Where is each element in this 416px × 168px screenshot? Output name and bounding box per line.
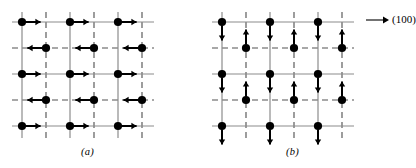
spin-site xyxy=(338,29,346,52)
spin-site xyxy=(266,18,274,41)
spin-site xyxy=(18,122,41,130)
lattice-site-dot xyxy=(338,44,346,52)
spin-site xyxy=(123,96,146,104)
spin-arrowhead-left-icon xyxy=(27,45,32,51)
lattice-site-dot xyxy=(66,70,74,78)
spin-arrowhead-right-icon xyxy=(35,123,40,129)
spin-site xyxy=(114,122,137,130)
lattice-site-dot xyxy=(66,122,74,130)
spin-arrowhead-left-icon xyxy=(75,45,80,51)
lattice-site-dot xyxy=(290,44,298,52)
spin-site xyxy=(66,70,89,78)
spin-site xyxy=(123,44,146,52)
spin-arrowhead-up-icon xyxy=(243,29,249,34)
panel-a-caption: (a) xyxy=(0,146,175,157)
panel-a xyxy=(0,0,203,168)
spin-site xyxy=(218,18,226,41)
spin-arrowhead-right-icon xyxy=(131,19,136,25)
lattice-site-dot xyxy=(114,70,122,78)
lattice-site-dot xyxy=(290,96,298,104)
spin-site xyxy=(242,81,250,104)
lattice-site-dot xyxy=(218,70,226,78)
lattice-site-dot xyxy=(338,96,346,104)
spin-site xyxy=(314,122,322,145)
lattice-site-dot xyxy=(242,96,250,104)
direction-label-text: (100) xyxy=(392,13,416,25)
spin-arrowhead-down-icon xyxy=(219,87,225,92)
spin-site xyxy=(242,29,250,52)
spin-arrowhead-left-icon xyxy=(75,97,80,103)
spin-arrowhead-down-icon xyxy=(267,139,273,144)
spin-arrowhead-up-icon xyxy=(243,81,249,86)
lattice-site-dot xyxy=(218,18,226,26)
spin-site xyxy=(338,81,346,104)
lattice-site-dot xyxy=(138,96,146,104)
spin-site xyxy=(18,70,41,78)
spin-arrowhead-right-icon xyxy=(35,19,40,25)
lattice-site-dot xyxy=(138,44,146,52)
spin-arrowhead-down-icon xyxy=(267,35,273,40)
spin-arrowhead-right-icon xyxy=(83,71,88,77)
spin-arrowhead-right-icon xyxy=(131,123,136,129)
lattice-site-dot xyxy=(218,122,226,130)
spin-arrowhead-down-icon xyxy=(219,35,225,40)
lattice-site-dot xyxy=(266,70,274,78)
spin-arrowhead-down-icon xyxy=(267,87,273,92)
lattice-site-dot xyxy=(314,122,322,130)
spin-arrowhead-up-icon xyxy=(339,29,345,34)
lattice-site-dot xyxy=(266,122,274,130)
spin-site xyxy=(266,70,274,93)
spin-site xyxy=(27,44,50,52)
spin-arrowhead-right-icon xyxy=(83,19,88,25)
lattice-site-dot xyxy=(314,18,322,26)
spin-site xyxy=(66,18,89,26)
lattice-site-dot xyxy=(114,122,122,130)
right-arrow-icon xyxy=(366,15,390,25)
direction-label: (100) xyxy=(366,13,416,25)
lattice-site-dot xyxy=(114,18,122,26)
spin-site xyxy=(218,70,226,93)
spin-site xyxy=(290,29,298,52)
lattice-site-dot xyxy=(314,70,322,78)
spin-arrowhead-right-icon xyxy=(35,71,40,77)
lattice-site-dot xyxy=(42,96,50,104)
spin-arrowhead-left-icon xyxy=(27,97,32,103)
spin-arrowhead-left-icon xyxy=(123,97,128,103)
spin-arrowhead-down-icon xyxy=(315,35,321,40)
lattice-site-dot xyxy=(90,96,98,104)
panel-a-lattice xyxy=(0,0,203,145)
spin-site xyxy=(114,18,137,26)
lattice-site-dot xyxy=(42,44,50,52)
spin-arrowhead-up-icon xyxy=(291,81,297,86)
spin-site xyxy=(75,96,98,104)
spin-arrowhead-down-icon xyxy=(315,139,321,144)
spin-site xyxy=(218,122,226,145)
spin-site xyxy=(314,70,322,93)
spin-site xyxy=(27,96,50,104)
spin-site xyxy=(290,81,298,104)
spin-site xyxy=(75,44,98,52)
spin-site xyxy=(66,122,89,130)
spin-arrowhead-right-icon xyxy=(83,123,88,129)
lattice-site-dot xyxy=(66,18,74,26)
lattice-site-dot xyxy=(18,122,26,130)
spin-arrowhead-up-icon xyxy=(291,29,297,34)
spin-arrowhead-up-icon xyxy=(339,81,345,86)
spin-arrowhead-down-icon xyxy=(219,139,225,144)
spin-site xyxy=(266,122,274,145)
panel-b-caption: (b) xyxy=(205,146,380,157)
spin-arrowhead-right-icon xyxy=(131,71,136,77)
spin-arrowhead-left-icon xyxy=(123,45,128,51)
spin-site xyxy=(18,18,41,26)
spin-site xyxy=(114,70,137,78)
lattice-site-dot xyxy=(242,44,250,52)
lattice-site-dot xyxy=(18,70,26,78)
lattice-site-dot xyxy=(18,18,26,26)
spin-arrowhead-down-icon xyxy=(315,87,321,92)
lattice-site-dot xyxy=(90,44,98,52)
lattice-site-dot xyxy=(266,18,274,26)
spin-site xyxy=(314,18,322,41)
